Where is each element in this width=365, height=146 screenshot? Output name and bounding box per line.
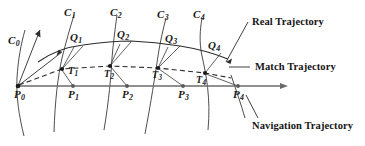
label-subscript: 4 (240, 93, 244, 102)
real-trajectory-curve (38, 41, 228, 62)
label-base: C (64, 6, 71, 18)
legend-leader-real (226, 22, 248, 64)
match-trajectory-label: Match Trajectory (255, 62, 336, 73)
point-label-p1: P1 (68, 89, 79, 100)
label-subscript: 0 (21, 93, 25, 102)
curve-label-c1: C1 (64, 7, 75, 18)
origin-rays (18, 30, 62, 86)
label-subscript: 4 (202, 79, 206, 87)
trajectory-diagram: P0P1P2P3P4T1T2T3T4Q1Q2Q3Q4C0C1C2C3C4Real… (0, 0, 365, 146)
real-label-q2: Q2 (117, 29, 129, 40)
real-label-q3: Q3 (165, 33, 177, 44)
label-subscript: 1 (72, 11, 76, 20)
match-label-t3: T3 (152, 70, 162, 80)
real-label-q1: Q1 (70, 32, 82, 43)
label-subscript: 3 (185, 93, 189, 102)
match-point-markers (60, 64, 207, 75)
label-subscript: 2 (125, 33, 129, 42)
label-subscript: 3 (173, 37, 177, 46)
point-label-p3: P3 (178, 89, 189, 100)
label-subscript: 4 (216, 44, 220, 53)
label-subscript: 3 (158, 74, 162, 82)
navigation-trajectory-label: Navigation Trajectory (252, 121, 353, 132)
real-trajectory-label: Real Trajectory (252, 17, 324, 28)
label-subscript: 0 (16, 39, 20, 48)
label-base: Q (117, 28, 125, 40)
label-subscript: 4 (201, 13, 205, 22)
curve-label-c0: C0 (8, 35, 19, 46)
point-label-p2: P2 (122, 89, 133, 100)
label-base: C (110, 6, 117, 18)
label-base: P (68, 88, 75, 100)
label-base: P (178, 88, 185, 100)
curve-label-c4: C4 (193, 9, 204, 20)
label-base: C (8, 34, 15, 46)
label-base: C (193, 8, 200, 20)
label-subscript: 1 (78, 36, 82, 45)
curve-label-c3: C3 (157, 9, 168, 20)
label-subscript: 2 (129, 93, 133, 102)
label-base: Q (208, 39, 216, 51)
legend-leader-navigation (246, 95, 258, 118)
label-subscript: 1 (75, 93, 79, 102)
point-label-p4: P4 (233, 89, 244, 100)
match-label-t1: T1 (68, 66, 78, 76)
curve-label-c2: C2 (110, 7, 121, 18)
real-label-q4: Q4 (208, 40, 220, 51)
point-label-p0: P0 (14, 89, 25, 100)
label-base: Q (165, 32, 173, 44)
label-subscript: 3 (165, 13, 169, 22)
match-label-t4: T4 (196, 75, 206, 85)
label-base: C (157, 8, 164, 20)
label-subscript: 2 (110, 73, 114, 81)
label-base: P (14, 88, 21, 100)
label-base: P (233, 88, 240, 100)
label-base: P (122, 88, 129, 100)
label-subscript: 2 (118, 11, 122, 20)
label-base: Q (70, 31, 78, 43)
match-label-t2: T2 (104, 69, 114, 79)
label-subscript: 1 (74, 70, 78, 78)
